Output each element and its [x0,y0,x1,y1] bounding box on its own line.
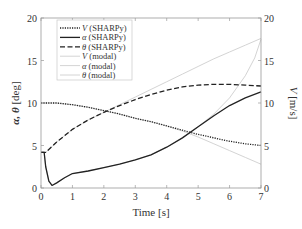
chart-figure: 012345670510152005101520 Time [s] α, θ [… [0,0,302,229]
right-y-tick-label: 20 [264,13,274,24]
right-y-tick-label: 0 [264,183,269,194]
left-y-tick-label: 5 [32,141,37,152]
left-y-tick-label: 15 [27,56,37,67]
right-y-axis-label: V [m/s] [288,87,300,120]
x-tick-label: 6 [227,191,232,202]
left-y-axis-symbols: α, θ [9,107,21,125]
series-line-2 [41,84,261,152]
left-y-axis-label: α, θ [deg] [9,81,21,124]
left-y-axis-unit: [deg] [9,81,21,107]
x-axis-label: Time [s] [132,206,169,218]
legend: V (SHARPy)α (SHARPy)θ (SHARPy)V (modal)α… [57,20,132,80]
x-tick-label: 1 [70,191,75,202]
x-tick-label: 2 [101,191,106,202]
left-y-tick-label: 20 [27,13,37,24]
right-y-axis-unit: [m/s] [288,93,300,119]
x-tick-label: 3 [133,191,138,202]
x-tick-label: 4 [164,191,169,202]
right-y-tick-label: 15 [264,56,274,67]
right-y-tick-label: 10 [264,98,274,109]
right-y-tick-label: 5 [264,141,269,152]
x-tick-label: 0 [39,191,44,202]
chart-svg: 012345670510152005101520 Time [s] α, θ [… [0,0,302,229]
legend-label: θ (modal) [82,70,115,80]
x-tick-label: 5 [196,191,201,202]
left-y-tick-label: 0 [32,183,37,194]
series-line-1 [41,92,261,186]
x-tick-label: 7 [259,191,264,202]
left-y-tick-label: 10 [27,98,37,109]
series-line-0 [41,103,261,146]
